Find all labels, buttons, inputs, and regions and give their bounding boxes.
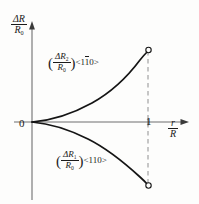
x-axis-denominator: R xyxy=(168,129,178,139)
upper-miller-close: > xyxy=(94,57,99,67)
y-axis-arrowhead xyxy=(29,21,35,30)
lower-numerator-base: ΔR xyxy=(63,149,74,159)
x-axis-arrowhead xyxy=(181,119,190,125)
upper-fraction: ΔR2 R0 xyxy=(53,52,71,73)
origin-tick-label: 0 xyxy=(19,118,25,129)
upper-miller-index: <110> xyxy=(75,56,98,67)
lower-miller-digits: 110 xyxy=(89,155,102,165)
lower-fraction: ΔR1 R0 xyxy=(61,150,79,171)
y-axis-denominator: R0 xyxy=(11,25,27,36)
x-axis-label: r R xyxy=(168,118,178,139)
endpoint-marker-upper xyxy=(146,47,151,52)
plot-canvas xyxy=(0,0,199,204)
x-axis-label-fraction: r R xyxy=(168,118,178,139)
y-axis-label-fraction: ΔR R0 xyxy=(11,14,27,36)
y-axis-label: ΔR R0 xyxy=(11,14,27,36)
x-tick-one-label: 1 xyxy=(146,116,152,127)
upper-numerator-base: ΔR xyxy=(55,51,66,61)
upper-denominator-sub: 0 xyxy=(63,67,66,73)
lower-curve-annotation: ( ΔR1 R0 )<110> xyxy=(56,150,107,171)
magnetoresistance-figure: ΔR R0 r R 0 1 ( ΔR2 R0 )<110> ( ΔR1 R0 )… xyxy=(0,0,199,204)
lower-miller-close: > xyxy=(102,155,107,165)
upper-numerator-sub: 2 xyxy=(66,56,69,62)
x-axis xyxy=(14,119,189,125)
y-axis-denominator-sub: 0 xyxy=(21,29,24,36)
lower-miller-index: <110> xyxy=(83,155,106,165)
lower-denominator-sub: 0 xyxy=(71,165,74,171)
lower-denominator: R0 xyxy=(61,161,79,171)
endpoint-marker-lower xyxy=(146,183,151,188)
upper-curve-annotation: ( ΔR2 R0 )<110> xyxy=(48,52,99,73)
upper-denominator: R0 xyxy=(53,63,71,73)
y-axis xyxy=(29,21,35,200)
lower-numerator-sub: 1 xyxy=(74,154,77,160)
